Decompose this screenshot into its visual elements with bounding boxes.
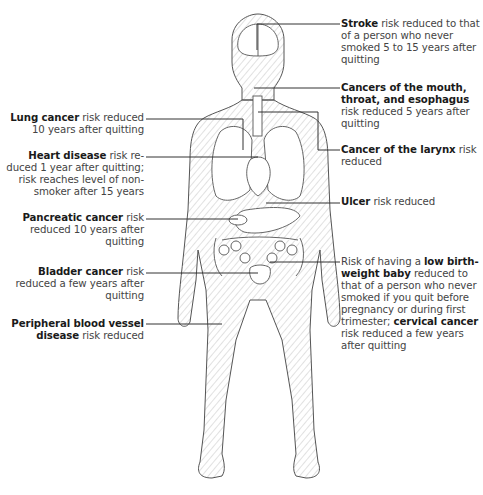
diagram-canvas: Lung cancer risk reduced 10 years after …: [0, 0, 483, 495]
label-heart-disease: Heart disease risk re- duced 1 year afte…: [0, 150, 144, 198]
label-peripheral-vessel: Peripheral blood vessel disease risk red…: [0, 318, 144, 342]
body-outline: [178, 14, 340, 478]
label-larynx: Cancer of the larynx risk reduced: [341, 144, 483, 168]
label-stroke: Stroke risk reduced to that of a person …: [341, 18, 483, 66]
label-mouth-throat-esophagus: Cancers of the mouth, throat, and esopha…: [341, 82, 483, 130]
label-pancreatic-cancer: Pancreatic cancer risk reduced 10 years …: [0, 212, 144, 248]
label-lung-cancer: Lung cancer risk reduced 10 years after …: [0, 112, 144, 136]
label-ulcer: Ulcer risk reduced: [341, 196, 483, 208]
label-bladder-cancer: Bladder cancer risk reduced a few years …: [0, 266, 144, 302]
label-birthweight-cervical: Risk of having a low birth- weight baby …: [341, 256, 483, 352]
